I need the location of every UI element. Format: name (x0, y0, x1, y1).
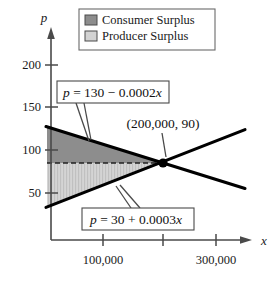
legend-swatch-consumer-surplus (85, 15, 97, 25)
demand-callout-leader-2 (84, 103, 91, 140)
x-tick-label-100000: 100,000 (83, 253, 124, 267)
y-tick-label-100: 100 (22, 143, 41, 157)
supply-demand-chart: p x 200 150 100 50 100,000 300,000 (200,… (0, 0, 277, 283)
equilibrium-point-dot (158, 158, 167, 167)
y-tick-label-200: 200 (22, 58, 41, 72)
y-axis-name: p (40, 10, 48, 25)
y-tick-label-50: 50 (29, 186, 42, 200)
x-axis-arrow (240, 236, 252, 244)
point-callout-leader (162, 133, 166, 157)
y-axis-arrow (47, 27, 55, 39)
legend-label-producer-surplus: Producer Surplus (102, 29, 189, 43)
legend-swatch-producer-surplus (85, 31, 97, 41)
chart-figure: p x 200 150 100 50 100,000 300,000 (200,… (0, 0, 277, 283)
legend-label-consumer-surplus: Consumer Surplus (102, 13, 195, 27)
y-tick-label-150: 150 (22, 100, 41, 114)
x-axis-name: x (260, 233, 267, 248)
x-tick-label-300000: 300,000 (196, 253, 237, 267)
demand-equation-text: p = 130 − 0.0002x (62, 85, 162, 100)
equilibrium-point-label: (200,000, 90) (126, 116, 199, 131)
supply-equation-text: p = 30 + 0.0003x (89, 212, 182, 227)
